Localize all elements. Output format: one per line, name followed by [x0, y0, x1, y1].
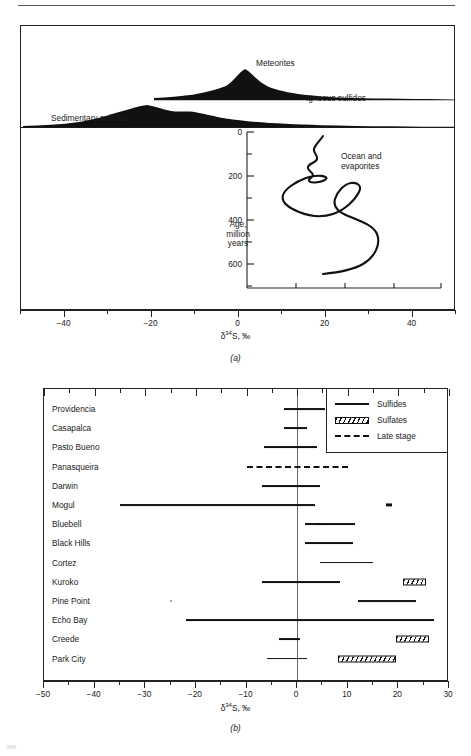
panel-b-minor-tick	[220, 681, 221, 685]
deposit-label: Mogul	[52, 500, 75, 510]
sulfides-range-bar	[262, 485, 320, 487]
panel-b-top-major-tick	[398, 389, 399, 396]
sulfides-range-bar	[264, 446, 317, 448]
panel-b-legend: Sulfides Sulfates Late stage	[326, 388, 448, 453]
panel-b-tick-label: −30	[137, 689, 151, 699]
panel-b-top-minor-tick	[221, 389, 222, 393]
panel-a-curves: 0 200 400 600	[21, 26, 456, 311]
panel-a-major-tick	[238, 310, 239, 317]
age-tick-600: 600	[228, 259, 242, 269]
label-sedimentary-sulfides: Sedimentary sulfides	[51, 114, 128, 124]
age-tick-0: 0	[237, 127, 242, 137]
sulfates-range-bar	[403, 578, 426, 585]
legend-label-late-stage: Late stage	[377, 431, 416, 441]
sulfides-range-bar	[279, 638, 299, 640]
label-ocean-and-evaporites: Ocean andevaporites	[341, 152, 382, 171]
panel-b-top-minor-tick	[272, 389, 273, 393]
sulfides-range-bar	[284, 408, 325, 410]
deposit-label: Black Hills	[52, 538, 90, 548]
zero-reference-line	[297, 389, 298, 680]
deposit-label: Pine Point	[52, 596, 90, 606]
panel-a-minor-tick	[368, 310, 369, 314]
label-meteorites: Meteorites	[256, 59, 295, 69]
panel-b-top-minor-tick	[322, 389, 323, 393]
sulfides-range-bar	[284, 427, 307, 429]
legend-key-hatched-bar	[327, 417, 377, 424]
panel-b-tick-label: 30	[443, 689, 452, 699]
deposit-label: Darwin	[52, 481, 78, 491]
legend-key-dashed-line	[327, 435, 377, 437]
panel-a-tick-label: −40	[56, 318, 70, 328]
panel-b-minor-tick	[68, 681, 69, 685]
panel-b-minor-tick	[372, 681, 373, 685]
panel-b-top-ticks	[44, 389, 447, 397]
panel-a-tick-label: −20	[143, 318, 157, 328]
panel-b-minor-tick	[423, 681, 424, 685]
label-age-axis: Age,millionyears	[217, 220, 259, 249]
panel-b-plot-frame: Sulfides Sulfates Late stage Providencia…	[43, 388, 448, 681]
panel-a-plot-frame: 0 200 400 600 Meteorites Igneous sulfide…	[20, 25, 455, 310]
panel-b-major-tick	[296, 681, 297, 688]
panel-b-major-tick	[94, 681, 95, 688]
panel-b-top-minor-tick	[69, 389, 70, 393]
panel-b-minor-tick	[119, 681, 120, 685]
sulfides-range-bar	[120, 504, 315, 506]
panel-b-major-tick	[195, 681, 196, 688]
panel-a-tick-label: 20	[320, 318, 329, 328]
panel-a-caption: (a)	[0, 353, 471, 363]
deposit-label: Park City	[52, 654, 86, 664]
panel-b-major-tick	[448, 681, 449, 688]
page-top-rule	[18, 5, 455, 6]
panel-a-axis-title: δ34S, ‰	[0, 330, 471, 341]
late-stage-range-bar	[247, 466, 348, 468]
stray-mark	[170, 600, 172, 602]
panel-b-tick-label: −50	[36, 689, 50, 699]
deposit-label: Echo Bay	[52, 615, 88, 625]
panel-b-top-minor-tick	[120, 389, 121, 393]
panel-b-top-minor-tick	[424, 389, 425, 393]
deposit-label: Providencia	[52, 404, 95, 414]
panel-b-minor-tick	[271, 681, 272, 685]
panel-a-tick-label: 0	[235, 318, 240, 328]
deposit-label: Creede	[52, 634, 79, 644]
panel-b-major-tick	[43, 681, 44, 688]
legend-item-sulfides: Sulfides	[327, 396, 447, 412]
sulfides-range-bar	[305, 542, 353, 544]
panel-b-tick-label: −40	[87, 689, 101, 699]
panel-b-top-major-tick	[145, 389, 146, 396]
page-folio: 388	[6, 744, 16, 750]
panel-a-major-tick	[325, 310, 326, 317]
sulfates-range-bar	[338, 655, 396, 662]
deposit-label: Pasto Bueno	[52, 442, 100, 452]
late-stage-range-bar	[305, 523, 323, 525]
panel-a-tick-label: 40	[407, 318, 416, 328]
panel-b-top-minor-tick	[373, 389, 374, 393]
panel-b-minor-tick	[321, 681, 322, 685]
panel-b-top-major-tick	[95, 389, 96, 396]
sulfides-range-bar	[186, 619, 434, 621]
panel-b-tick-label: 0	[294, 689, 299, 699]
panel-a-major-tick	[151, 310, 152, 317]
panel-a-major-tick	[412, 310, 413, 317]
panel-b-minor-tick	[170, 681, 171, 685]
panel-a-minor-tick	[20, 310, 21, 314]
sulfides-range-bar	[262, 581, 340, 583]
panel-b-caption: (b)	[0, 723, 471, 733]
panel-b-tick-label: 10	[342, 689, 351, 699]
panel-b-major-tick	[246, 681, 247, 688]
panel-b-major-tick	[144, 681, 145, 688]
legend-key-solid-line	[327, 403, 377, 405]
age-tick-200: 200	[228, 171, 242, 181]
sulfides-range-bar	[267, 658, 308, 660]
sulfates-range-bar	[396, 636, 429, 643]
panel-b-tick-label: −10	[238, 689, 252, 699]
deposit-label: Cortez	[52, 558, 76, 568]
panel-a-major-tick	[64, 310, 65, 317]
panel-b-axis-title: δ34S, ‰	[0, 702, 471, 713]
panel-b-top-major-tick	[44, 389, 45, 396]
panel-a-minor-tick	[281, 310, 282, 314]
panel-b-major-tick	[347, 681, 348, 688]
deposit-label: Kuroko	[52, 577, 78, 587]
sulfides-range-bar	[320, 562, 373, 564]
panel-a-minor-tick	[107, 310, 108, 314]
